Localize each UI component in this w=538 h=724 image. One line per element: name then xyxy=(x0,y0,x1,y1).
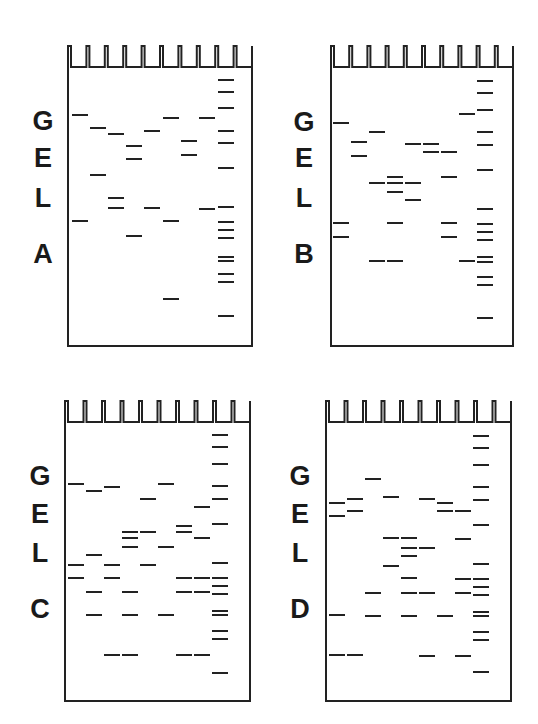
ladder-band xyxy=(477,208,493,210)
dna-band xyxy=(419,592,435,594)
dna-band xyxy=(329,515,345,517)
gel-label-letter: L xyxy=(287,540,313,567)
ladder-band xyxy=(473,464,489,466)
gel-label-letter: G xyxy=(291,109,317,136)
ladder-band xyxy=(477,144,493,146)
gel-a-wells xyxy=(67,45,255,69)
ladder-band xyxy=(218,91,234,93)
ladder-band xyxy=(473,524,489,526)
ladder-band xyxy=(473,435,489,437)
dna-band xyxy=(347,654,363,656)
ladder-band xyxy=(218,206,234,208)
gel-label-letter: E xyxy=(27,501,53,528)
dna-band xyxy=(140,531,156,533)
dna-band xyxy=(158,483,174,485)
gel-b-wells xyxy=(330,45,516,69)
dna-band xyxy=(86,554,102,556)
dna-band xyxy=(333,122,349,124)
dna-band xyxy=(72,220,88,222)
ladder-band xyxy=(477,131,493,133)
dna-band xyxy=(401,592,417,594)
ladder-band xyxy=(218,142,234,144)
dna-band xyxy=(181,154,197,156)
ladder-band xyxy=(473,586,489,588)
ladder-band xyxy=(477,80,493,82)
panel-label: D xyxy=(287,596,313,623)
ladder-band xyxy=(212,585,228,587)
ladder-band xyxy=(212,593,228,595)
ladder-band xyxy=(473,486,489,488)
ladder-band xyxy=(473,615,489,617)
dna-band xyxy=(122,537,138,539)
ladder-band xyxy=(218,107,234,109)
dna-band xyxy=(387,182,403,184)
dna-band xyxy=(383,537,399,539)
dna-band xyxy=(351,141,367,143)
dna-band xyxy=(108,133,124,135)
dna-band xyxy=(158,614,174,616)
dna-band xyxy=(351,155,367,157)
dna-band xyxy=(455,578,471,580)
ladder-band xyxy=(212,638,228,640)
dna-band xyxy=(405,182,421,184)
dna-band xyxy=(365,592,381,594)
ladder-band xyxy=(212,630,228,632)
dna-band xyxy=(176,525,192,527)
gel-label-letter: G xyxy=(27,463,53,490)
ladder-band xyxy=(477,256,493,258)
ladder-band xyxy=(212,463,228,465)
ladder-band xyxy=(477,92,493,94)
dna-band xyxy=(401,537,417,539)
dna-band xyxy=(387,260,403,262)
gel-d-wells xyxy=(325,400,514,424)
ladder-band xyxy=(477,169,493,171)
ladder-band xyxy=(218,229,234,231)
ladder-band xyxy=(218,130,234,132)
dna-band xyxy=(176,577,192,579)
panel-label: A xyxy=(30,241,56,268)
dna-band xyxy=(194,537,210,539)
ladder-band xyxy=(477,261,493,263)
ladder-band xyxy=(477,223,493,225)
ladder-band xyxy=(218,237,234,239)
dna-band xyxy=(181,140,197,142)
dna-band xyxy=(455,510,471,512)
dna-band xyxy=(122,531,138,533)
dna-band xyxy=(441,236,457,238)
ladder-band xyxy=(218,256,234,258)
dna-band xyxy=(383,565,399,567)
ladder-band xyxy=(477,109,493,111)
dna-band xyxy=(86,591,102,593)
dna-band xyxy=(126,235,142,237)
ladder-band xyxy=(477,231,493,233)
gel-label-letter: E xyxy=(291,145,317,172)
dna-band xyxy=(401,615,417,617)
ladder-band xyxy=(218,167,234,169)
dna-band xyxy=(199,117,215,119)
dna-band xyxy=(122,654,138,656)
ladder-band xyxy=(473,578,489,580)
ladder-band xyxy=(218,79,234,81)
dna-band xyxy=(455,655,471,657)
dna-band xyxy=(459,260,475,262)
dna-band xyxy=(104,564,120,566)
dna-band xyxy=(194,577,210,579)
dna-band xyxy=(419,498,435,500)
dna-band xyxy=(126,158,142,160)
dna-band xyxy=(441,222,457,224)
dna-band xyxy=(365,615,381,617)
dna-band xyxy=(108,197,124,199)
dna-band xyxy=(68,564,84,566)
dna-band xyxy=(365,478,381,480)
ladder-band xyxy=(218,315,234,317)
dna-band xyxy=(441,176,457,178)
dna-band xyxy=(176,531,192,533)
ladder-band xyxy=(477,317,493,319)
dna-band xyxy=(194,506,210,508)
dna-band xyxy=(333,222,349,224)
ladder-band xyxy=(473,563,489,565)
dna-band xyxy=(387,191,403,193)
dna-band xyxy=(455,538,471,540)
dna-band xyxy=(90,174,106,176)
dna-band xyxy=(163,220,179,222)
